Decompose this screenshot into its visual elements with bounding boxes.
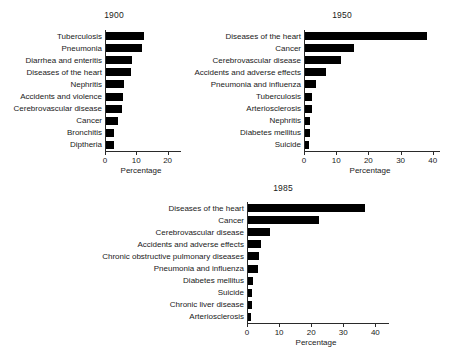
plot-area-1985: 010203040PercentageDiseases of the heart… [247, 202, 385, 323]
category-label: Cerebrovascular disease [14, 104, 103, 113]
category-label: Tuberculosis [57, 32, 102, 41]
bar [305, 44, 354, 52]
bar [248, 228, 270, 236]
x-axis-tick-label: 0 [302, 156, 306, 165]
category-label: Pneumonia and influenza [211, 80, 301, 89]
x-axis-tick [311, 324, 312, 327]
x-axis-tick [136, 152, 137, 155]
x-axis-tick [304, 152, 305, 155]
x-axis-tick-label: 30 [339, 328, 348, 337]
category-label: Accidents and violence [20, 92, 102, 101]
x-axis-tick-label: 40 [428, 156, 437, 165]
plot-area-1950: 010203040PercentageDiseases of the heart… [304, 30, 436, 151]
x-axis-tick-label: 10 [332, 156, 341, 165]
bar [106, 68, 131, 76]
category-label: Diabetes mellitus [240, 128, 301, 137]
bar [106, 56, 132, 64]
x-axis-tick [375, 324, 376, 327]
category-label: Pneumonia and influenza [154, 264, 244, 273]
x-axis-tick-label: 20 [364, 156, 373, 165]
bar [106, 44, 142, 52]
category-label: Suicide [218, 288, 244, 297]
bar [305, 129, 310, 137]
category-label: Accidents and adverse effects [194, 68, 301, 77]
category-label: Cancer [76, 116, 102, 125]
x-axis-title: Percentage [296, 338, 337, 347]
category-label: Nephritis [70, 80, 102, 89]
bar [248, 289, 252, 297]
plot-area-1900: 01020PercentageTuberculosisPneumoniaDiar… [105, 30, 177, 151]
bar [106, 80, 124, 88]
category-label: Nephritis [269, 116, 301, 125]
bar [248, 252, 259, 260]
category-label: Arteriosclerosis [246, 104, 301, 113]
x-axis-tick-label: 0 [245, 328, 249, 337]
x-axis-tick [343, 324, 344, 327]
bar [106, 93, 123, 101]
category-label: Tuberculosis [256, 92, 301, 101]
bar [248, 265, 258, 273]
x-axis-tick [336, 152, 337, 155]
category-label: Diseases of the heart [225, 32, 301, 41]
bar [248, 277, 253, 285]
x-axis-tick [279, 324, 280, 327]
category-label: Cerebrovascular disease [213, 56, 302, 65]
bar [305, 68, 326, 76]
x-axis-tick-label: 0 [103, 156, 107, 165]
x-axis-tick [368, 152, 369, 155]
category-label: Cerebrovascular disease [156, 228, 245, 237]
x-axis-tick [168, 152, 169, 155]
category-label: Diarrhea and enteritis [26, 56, 102, 65]
bar [305, 117, 310, 125]
x-axis-tick-label: 20 [163, 156, 172, 165]
x-axis-tick-label: 10 [132, 156, 141, 165]
x-axis-title: Percentage [121, 166, 162, 175]
x-axis-line [105, 151, 181, 152]
category-label: Diseases of the heart [26, 68, 102, 77]
x-axis-tick [433, 152, 434, 155]
x-axis-tick-label: 40 [371, 328, 380, 337]
bar [305, 141, 309, 149]
bar [305, 105, 312, 113]
chart-title-1985: 1985 [110, 183, 456, 193]
category-label: Bronchitis [67, 128, 102, 137]
category-label: Chronic liver disease [170, 300, 244, 309]
x-axis-tick-label: 30 [396, 156, 405, 165]
chart-title-1900: 1900 [0, 10, 228, 20]
category-label: Arteriosclerosis [189, 312, 244, 321]
x-axis-tick [105, 152, 106, 155]
bar [106, 32, 144, 40]
x-axis-tick [401, 152, 402, 155]
bar [106, 141, 114, 149]
category-label: Diseases of the heart [168, 204, 244, 213]
category-label: Suicide [275, 140, 301, 149]
bar [248, 240, 261, 248]
category-label: Accidents and adverse effects [137, 240, 244, 249]
bar [305, 80, 316, 88]
chart-panel-1900: 1900 01020PercentageTuberculosisPneumoni… [0, 0, 228, 180]
category-label: Chronic obstructive pulmonary diseases [102, 252, 244, 261]
category-label: Diabetes mellitus [183, 276, 244, 285]
category-label: Diptheria [70, 140, 102, 149]
x-axis-tick-label: 20 [307, 328, 316, 337]
bar [305, 93, 312, 101]
chart-panel-1950: 1950 010203040PercentageDiseases of the … [228, 0, 456, 180]
chart-panel-1985: 1985 010203040PercentageDiseases of the … [110, 180, 456, 361]
bar [248, 204, 365, 212]
x-axis-line [247, 323, 389, 324]
x-axis-line [304, 151, 440, 152]
category-label: Cancer [218, 216, 244, 225]
bar [106, 129, 114, 137]
chart-title-1950: 1950 [228, 10, 456, 20]
x-axis-tick-label: 10 [275, 328, 284, 337]
bar [106, 117, 118, 125]
bar [305, 56, 341, 64]
bar [248, 313, 251, 321]
bar [248, 301, 252, 309]
category-label: Pneumonia [62, 44, 102, 53]
category-label: Cancer [275, 44, 301, 53]
bar [106, 105, 122, 113]
bar [248, 216, 319, 224]
bar [305, 32, 427, 40]
x-axis-title: Percentage [350, 166, 391, 175]
